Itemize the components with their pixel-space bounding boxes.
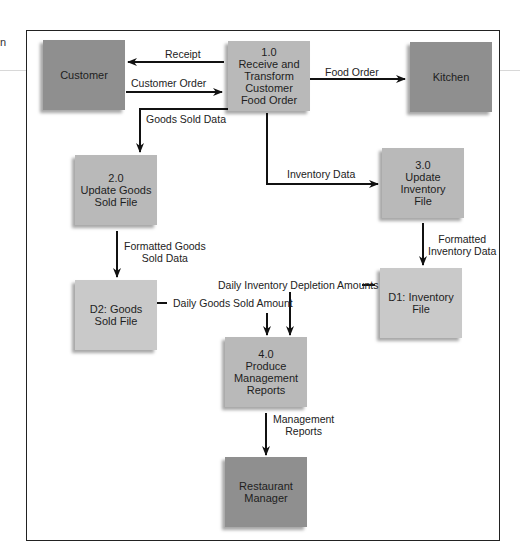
- page-text-fragment: n: [0, 36, 6, 48]
- process-3-update-inventory: 3.0 Update Inventory File: [382, 148, 464, 218]
- datastore-d2-goods-sold-file: D2: Goods Sold File: [75, 280, 157, 350]
- flow-label-management-reports: Management Reports: [273, 413, 334, 437]
- flow-label-receipt: Receipt: [165, 48, 201, 60]
- entity-kitchen: Kitchen: [410, 42, 492, 112]
- flow-label-customer-order: Customer Order: [131, 77, 206, 89]
- flow-label-daily-inventory-depletion: Daily Inventory Depletion Amounts: [218, 279, 379, 291]
- entity-customer: Customer: [43, 40, 125, 110]
- entity-restaurant-manager: Restaurant Manager: [225, 457, 307, 527]
- flow-label-daily-goods-sold-amount: Daily Goods Sold Amount: [173, 297, 293, 309]
- process-2-update-goods-sold: 2.0 Update Goods Sold File: [75, 155, 157, 225]
- flow-label-formatted-inventory-data: Formatted Inventory Data: [428, 233, 496, 257]
- flow-label-inventory-data: Inventory Data: [287, 168, 355, 180]
- datastore-d1-inventory-file: D1: Inventory File: [380, 268, 462, 338]
- flow-label-food-order: Food Order: [325, 66, 379, 78]
- process-1-receive-transform-order: 1.0 Receive and Transform Customer Food …: [228, 41, 310, 111]
- process-4-produce-reports: 4.0 Produce Management Reports: [225, 337, 307, 407]
- flow-label-formatted-goods-sold-data: Formatted Goods Sold Data: [124, 240, 206, 264]
- flow-label-goods-sold-data: Goods Sold Data: [146, 113, 226, 125]
